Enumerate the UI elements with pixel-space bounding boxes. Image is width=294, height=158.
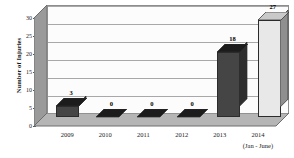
- x-label-year: 2013: [213, 131, 226, 138]
- bar-2009[interactable]: 3: [56, 106, 79, 117]
- y-tick-label: 30: [16, 15, 32, 21]
- y-tick-label: 15: [16, 69, 32, 75]
- plot-area: 30001827: [34, 5, 289, 130]
- bar-chart: Number of Injuries 051015202530 30001827…: [0, 0, 294, 158]
- bar-slot: 3: [47, 5, 87, 123]
- bar-value-label: 18: [215, 35, 249, 42]
- y-axis-ticks: 051015202530: [16, 0, 32, 158]
- bar-top-face: [217, 44, 249, 54]
- x-label-year: 2014: [252, 131, 265, 138]
- bar-2013[interactable]: 18: [217, 52, 240, 117]
- x-label-year: 2010: [99, 131, 112, 138]
- y-tick-label: 25: [16, 33, 32, 39]
- bar-value-label: 0: [94, 100, 128, 107]
- bar-2012[interactable]: 0: [177, 116, 200, 117]
- bar-top-face: [56, 98, 88, 108]
- bar-top-face: [137, 109, 169, 119]
- bar-value-label: 0: [175, 100, 209, 107]
- x-label-year: 2012: [175, 131, 188, 138]
- bar-2014[interactable]: 27: [258, 20, 281, 117]
- bar-front-face: [217, 52, 240, 117]
- y-tick-label: 5: [16, 105, 32, 111]
- y-tick-label: 0: [16, 123, 32, 129]
- x-label-year: 2009: [61, 131, 74, 138]
- bar-front-face: [258, 20, 281, 117]
- bar-slot: 0: [168, 5, 208, 123]
- y-tick-label: 10: [16, 87, 32, 93]
- bar-slot: 0: [128, 5, 168, 123]
- y-tick-label: 20: [16, 51, 32, 57]
- bar-series: 30001827: [47, 5, 289, 123]
- bar-top-face: [96, 109, 128, 119]
- bar-slot: 27: [249, 5, 289, 123]
- bar-slot: 0: [87, 5, 127, 123]
- bar-slot: 18: [208, 5, 248, 123]
- bar-2011[interactable]: 0: [137, 116, 160, 117]
- x-label-2014: 2014(Jan - June): [235, 130, 281, 150]
- bar-value-label: 0: [135, 100, 169, 107]
- x-label-year: 2011: [137, 131, 150, 138]
- bar-top-face: [258, 12, 290, 22]
- bar-2010[interactable]: 0: [96, 116, 119, 117]
- bar-value-label: 3: [54, 89, 88, 96]
- x-label-sublabel: (Jan - June): [235, 141, 281, 150]
- bar-side-face: [280, 10, 289, 117]
- x-axis-labels: 200920102011201220132014(Jan - June): [34, 130, 292, 158]
- plot-left-wall: [34, 5, 47, 126]
- bar-value-label: 27: [256, 3, 290, 10]
- bar-top-face: [177, 109, 209, 119]
